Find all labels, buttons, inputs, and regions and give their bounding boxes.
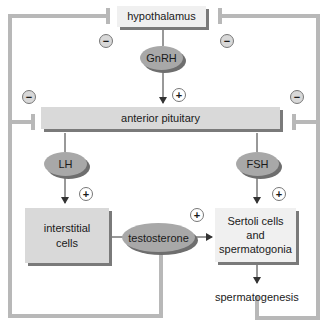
hypothalamus-label: hypothalamus [127, 9, 196, 23]
sertoli-cells-label: Sertoli cells and spermatogonia [218, 214, 294, 257]
gnrh-label: GnRH [146, 52, 177, 64]
testosterone-oval: testosterone [122, 223, 195, 252]
anterior-pituitary-label: anterior pituitary [121, 111, 200, 125]
minus-sign-hypothalamus-left: − [99, 34, 113, 48]
interstitial-cells-label: interstitial cells [37, 221, 97, 250]
minus-sign-hypothalamus-right: − [220, 34, 234, 48]
plus-sign-fsh: + [272, 187, 286, 201]
spermatogenesis-label: spermatogenesis [215, 291, 299, 303]
anterior-pituitary-box: anterior pituitary [41, 107, 280, 129]
plus-sign-testosterone: + [190, 208, 204, 222]
minus-sign-pituitary-left: − [22, 90, 36, 104]
sertoli-cells-box: Sertoli cells and spermatogonia [215, 208, 296, 262]
minus-sign-pituitary-right: − [290, 90, 304, 104]
fsh-oval: FSH [236, 152, 279, 176]
plus-sign-gnrh: + [172, 88, 186, 102]
fsh-label: FSH [247, 158, 269, 170]
lh-label: LH [58, 158, 72, 170]
plus-sign-lh: + [79, 187, 93, 201]
testosterone-label: testosterone [128, 232, 189, 244]
lh-oval: LH [44, 152, 87, 176]
gnrh-oval: GnRH [140, 46, 183, 70]
interstitial-cells-box: interstitial cells [25, 208, 109, 263]
hypothalamus-box: hypothalamus [117, 6, 206, 27]
